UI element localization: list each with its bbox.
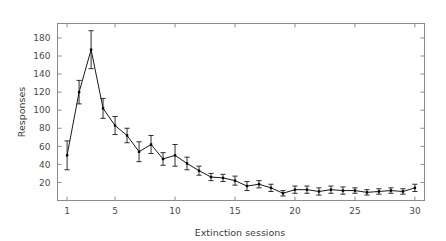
- y-tick-label: 160: [33, 51, 50, 61]
- x-tick-label: 5: [112, 206, 118, 216]
- y-tick-label: 180: [33, 33, 50, 43]
- x-tick-label: 20: [289, 206, 301, 216]
- x-tick-label: 25: [349, 206, 360, 216]
- x-tick-label: 30: [409, 206, 421, 216]
- y-tick-label: 40: [39, 160, 51, 170]
- x-tick-label: 10: [169, 206, 181, 216]
- y-tick-label: 20: [39, 178, 51, 188]
- y-tick-label: 100: [33, 105, 50, 115]
- y-axis-title: Responses: [16, 87, 27, 138]
- chart-figure: 151015202530 20406080100120140160180 Ext…: [0, 0, 446, 241]
- y-tick-label: 80: [39, 123, 51, 133]
- x-axis-title: Extinction sessions: [195, 227, 286, 238]
- y-tick-label: 120: [33, 87, 50, 97]
- x-tick-label: 15: [229, 206, 240, 216]
- y-tick-label: 60: [39, 142, 51, 152]
- line-chart-plot: 151015202530 20406080100120140160180 Ext…: [0, 0, 446, 241]
- x-tick-label: 1: [64, 206, 70, 216]
- y-tick-label: 140: [33, 69, 50, 79]
